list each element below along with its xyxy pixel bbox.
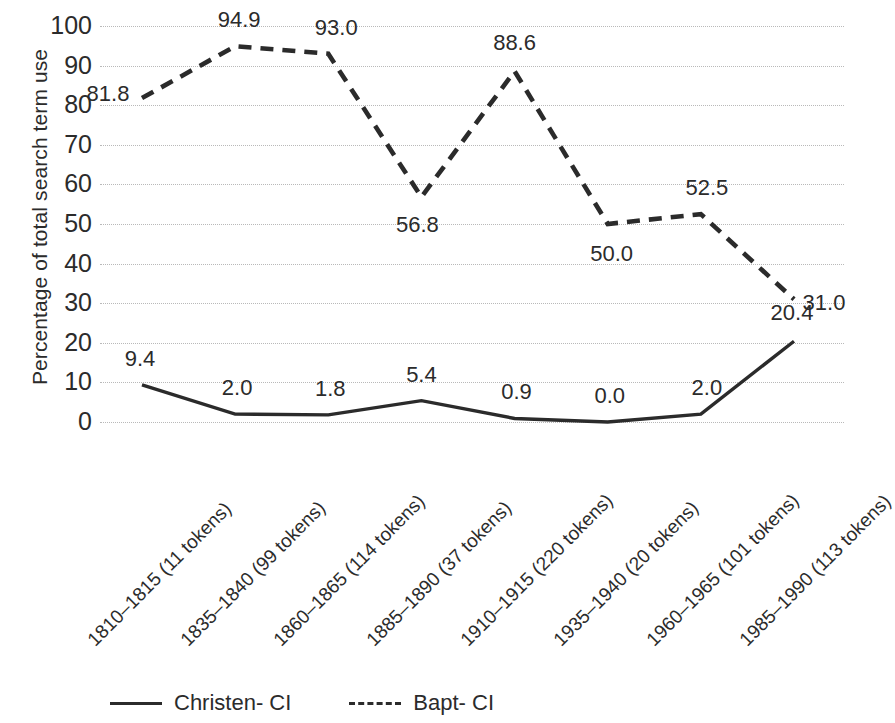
x-tick-4: 1910–1915 (220 tokens) (457, 490, 616, 649)
x-tick-2: 1860–1865 (114 tokens) (270, 491, 428, 649)
legend-key-dashed-line-icon (349, 702, 401, 705)
chart-legend: Christen- CIBapt- CI (110, 690, 494, 716)
x-tick-7: 1985–1990 (113 tokens) (736, 491, 894, 649)
legend-label: Christen- CI (174, 690, 291, 716)
legend-item-christen[interactable]: Christen- CI (110, 690, 291, 716)
legend-label: Bapt- CI (413, 690, 494, 716)
x-tick-6: 1960–1965 (101 tokens) (643, 490, 802, 649)
legend-key-solid-line-icon (110, 702, 162, 705)
legend-item-bapt[interactable]: Bapt- CI (349, 690, 494, 716)
